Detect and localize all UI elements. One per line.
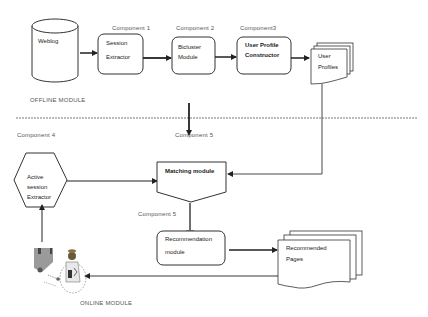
weblog-label: Weblog [38, 38, 58, 46]
recommended-pages-label-1: Recommended [286, 245, 327, 253]
active-session-label-2: session [27, 184, 47, 192]
diagram-canvas [0, 0, 428, 317]
component-2-label: Component 2 [176, 25, 214, 33]
recommended-pages-label-2: Pages [286, 256, 303, 264]
component-1-label: Component 1 [112, 25, 150, 33]
offline-module-label: OFFLINE MODULE [30, 97, 85, 105]
session-extractor-label-2: Extractor [106, 54, 130, 62]
user-profiles-label-2: Profiles [318, 64, 338, 72]
bicluster-label-2: Module [178, 54, 198, 62]
weblog-database [32, 19, 78, 82]
upc-label-1: User Profile [245, 42, 279, 50]
active-session-label-1: Active [27, 174, 43, 182]
matching-module-label: Matching module [165, 168, 214, 176]
component-4-label: Component 4 [17, 132, 55, 140]
bicluster-label-1: Bicluster [178, 44, 201, 52]
arrow-profiles-to-matching [228, 84, 322, 174]
component-5-bottom-label: Component 5 [138, 211, 176, 219]
active-session-label-3: Extractor [27, 194, 51, 202]
online-module-label: ONLINE MODULE [80, 300, 132, 308]
component-5-top-label: Component 5 [175, 132, 213, 140]
session-extractor-label-1: Session [106, 40, 127, 48]
user-profiles-label-1: User [318, 53, 331, 61]
component-3-label: Component3 [240, 25, 276, 33]
recommendation-label-1: Recommendation [165, 236, 212, 244]
recommendation-label-2: module [165, 249, 185, 257]
upc-label-2: Constructor [245, 52, 279, 60]
user-clipart-icon [34, 248, 86, 293]
